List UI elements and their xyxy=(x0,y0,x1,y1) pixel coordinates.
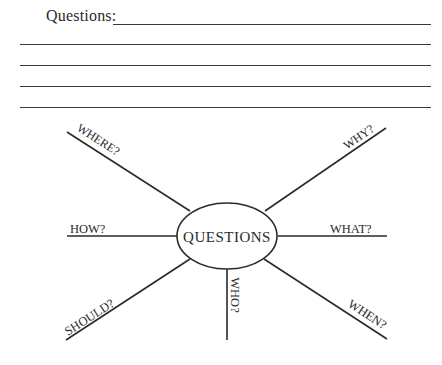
center-label: QUESTIONS xyxy=(183,229,271,245)
label-what: WHAT? xyxy=(330,222,372,236)
label-should: SHOULD? xyxy=(62,296,117,339)
label-why: WHY? xyxy=(341,122,377,153)
label-how: HOW? xyxy=(70,222,106,236)
spoke-why xyxy=(265,128,386,211)
question-web-diagram: QUESTIONS WHERE? WHY? HOW? WHAT? SHOULD?… xyxy=(0,0,442,365)
spoke-when xyxy=(264,259,387,339)
label-who: WHO? xyxy=(228,277,242,313)
spoke-where xyxy=(67,132,190,211)
